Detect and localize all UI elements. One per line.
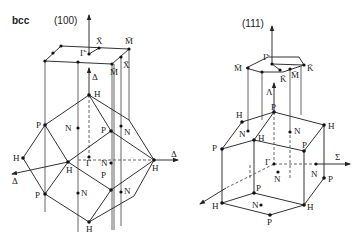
- p-label: P: [328, 174, 333, 184]
- h-label: H: [94, 89, 101, 99]
- gamma-label: Γ: [86, 158, 91, 168]
- lattice-label: bcc: [12, 15, 30, 26]
- mbar-label: M̄: [125, 36, 133, 46]
- h-label: H: [66, 165, 73, 175]
- panel-bcc-111: (111): [200, 18, 350, 227]
- delta-label: Δ: [171, 149, 177, 159]
- n-label: N: [65, 123, 72, 133]
- delta-label: Δ: [12, 176, 18, 186]
- n-label: N: [239, 129, 246, 139]
- surface-label-100: (100): [54, 15, 77, 26]
- delta-label: Δ: [92, 72, 98, 82]
- p-label: P: [35, 190, 40, 200]
- p-label: P: [212, 143, 217, 153]
- brillouin-zone-diagram: bcc (100): [0, 0, 361, 240]
- n-label: N: [311, 169, 318, 179]
- p-label: P: [256, 183, 261, 193]
- lambda-label: Λ: [266, 87, 273, 97]
- p-label: P: [101, 170, 106, 180]
- h-label: H: [152, 163, 159, 173]
- delta-axis-left: [12, 162, 68, 174]
- surface-label-111: (111): [242, 18, 264, 29]
- n-label: N: [274, 174, 281, 184]
- sigma-label: Σ: [335, 152, 340, 162]
- gamma-label: Γ: [265, 157, 270, 167]
- mbar-label: M̄: [291, 70, 299, 80]
- h-label: H: [307, 202, 314, 212]
- h-label: H: [258, 133, 265, 143]
- mbar-label: M̄: [110, 67, 118, 77]
- n-label: N: [81, 188, 88, 198]
- gammabar-label: Γ̄: [80, 48, 87, 58]
- xbar-label: X̄: [96, 36, 103, 46]
- p-label: P: [267, 217, 272, 227]
- h-label: H: [13, 153, 20, 163]
- p-label: P: [101, 125, 106, 135]
- kbar-label: K̄: [280, 74, 287, 84]
- p-label: P: [36, 120, 41, 130]
- h-label: H: [236, 110, 243, 120]
- h-label: H: [212, 201, 219, 211]
- mbar-label: M̄: [234, 63, 242, 73]
- h-label: H: [86, 224, 93, 234]
- h-label: H: [328, 121, 335, 131]
- xbar-label: X̄: [123, 60, 130, 70]
- p-label: P: [302, 140, 307, 150]
- symmetry-points-111: [220, 62, 326, 216]
- n-label: N: [294, 126, 301, 136]
- n-label: N: [252, 200, 259, 210]
- p-label: P: [271, 102, 276, 112]
- n-label: N: [124, 127, 131, 137]
- n-label: N: [101, 158, 108, 168]
- surface-gx-line: [89, 48, 99, 54]
- n-label: N: [124, 186, 131, 196]
- kbar-label: K̄: [307, 63, 314, 73]
- panel-bcc-100: bcc (100): [12, 15, 178, 234]
- surface-bz-100: [45, 46, 129, 64]
- surface-gk-line: [272, 64, 304, 65]
